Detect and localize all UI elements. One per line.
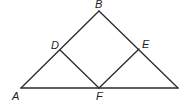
geometry-diagram: B D E A F (0, 0, 181, 104)
label-f: F (96, 90, 104, 102)
label-e: E (142, 38, 150, 50)
label-a: A (11, 90, 19, 102)
segment-ef (99, 49, 139, 88)
label-b: B (95, 0, 102, 10)
segment-df (60, 50, 99, 88)
label-d: D (51, 39, 59, 51)
